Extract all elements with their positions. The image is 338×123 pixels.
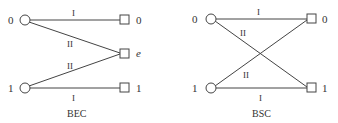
bec-edge-label-0-e: II bbox=[67, 39, 73, 49]
bec-output-node-e bbox=[120, 49, 129, 58]
bsc-input-label-0: 0 bbox=[192, 13, 198, 25]
bec-output-node-0 bbox=[120, 15, 129, 24]
bec-caption: BEC bbox=[67, 108, 87, 119]
bsc-output-node-0 bbox=[307, 14, 316, 23]
bsc-edge-1-0 bbox=[215, 20, 307, 86]
bec-edge-1-e bbox=[29, 54, 120, 86]
bec-edge-label-1-1: I bbox=[72, 93, 75, 103]
bsc-edge-label-1-1: I bbox=[259, 93, 262, 103]
bec-output-label-1: 1 bbox=[136, 82, 142, 94]
bec-output-label-0: 0 bbox=[136, 14, 142, 26]
bec-diagram bbox=[20, 15, 129, 93]
bec-edge-label-1-e: II bbox=[67, 61, 73, 71]
bsc-edge-label-0-0: I bbox=[257, 7, 260, 17]
bec-output-label-e: e bbox=[136, 47, 141, 59]
channel-diagrams: 0 1 0 e 1 I II II I BEC 0 1 0 1 I II II … bbox=[0, 0, 338, 123]
bec-input-label-1: 1 bbox=[8, 82, 14, 94]
bec-input-node-1 bbox=[20, 83, 30, 93]
bsc-edge-label-0-1: II bbox=[240, 28, 246, 38]
bec-edge-0-e bbox=[29, 22, 120, 53]
bsc-diagram bbox=[206, 14, 316, 93]
bsc-output-label-1: 1 bbox=[322, 82, 328, 94]
bsc-edge-label-1-0: II bbox=[243, 70, 249, 80]
bsc-output-label-0: 0 bbox=[322, 13, 328, 25]
bsc-edge-0-1 bbox=[215, 21, 307, 87]
bsc-caption: BSC bbox=[252, 108, 271, 119]
bec-input-label-0: 0 bbox=[8, 14, 14, 26]
bec-edge-label-0-0: I bbox=[72, 8, 75, 18]
bsc-input-label-1: 1 bbox=[192, 82, 198, 94]
bsc-output-node-1 bbox=[307, 83, 316, 92]
bsc-input-node-1 bbox=[206, 83, 216, 93]
bec-input-node-0 bbox=[20, 15, 30, 25]
bec-output-node-1 bbox=[120, 83, 129, 92]
bsc-input-node-0 bbox=[206, 14, 216, 24]
